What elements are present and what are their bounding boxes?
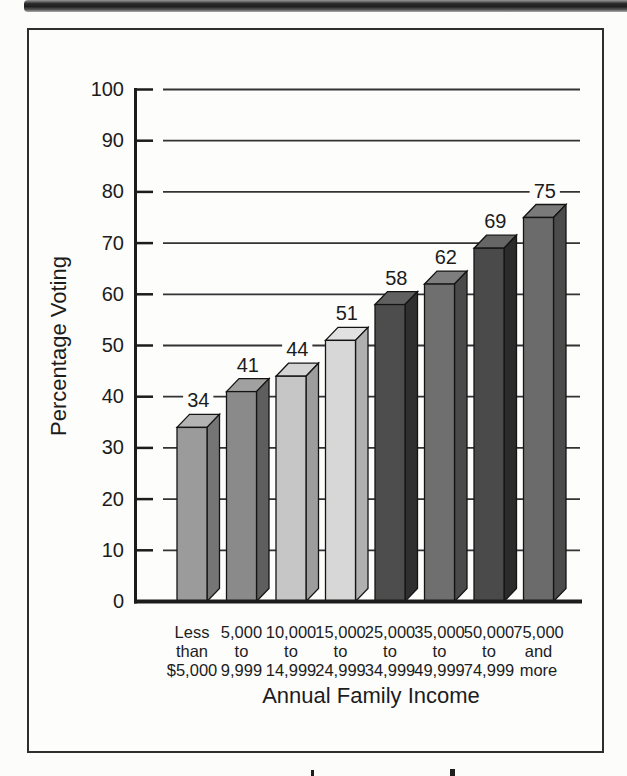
bar-value-label: 62 — [435, 246, 457, 268]
bar-value-label: 51 — [336, 302, 358, 324]
bar-side — [554, 205, 567, 602]
category-label: 75,000andmore — [513, 623, 563, 679]
bar-value-label: 34 — [187, 389, 209, 411]
y-tick-label: 60 — [102, 283, 124, 305]
category-label: 25,000to34,999 — [365, 623, 415, 679]
y-tick-label: 90 — [102, 129, 124, 151]
bar-value-label: 41 — [237, 354, 259, 376]
bar-value-label: 75 — [534, 180, 556, 202]
bar-face — [326, 340, 356, 601]
y-tick-label: 80 — [102, 180, 124, 202]
bar-face — [375, 305, 405, 602]
bar-value-label: 69 — [484, 210, 506, 232]
y-tick-label: 10 — [102, 539, 124, 561]
category-label: 10,000to14,999 — [266, 623, 316, 679]
bar-face — [524, 218, 554, 602]
bar-side — [504, 235, 517, 601]
bar-side — [455, 271, 468, 601]
y-tick-label: 70 — [102, 232, 124, 254]
bar-side — [356, 327, 369, 601]
category-label: 15,000to24,999 — [315, 623, 365, 679]
bar-chart: 01020304050607080901003441445158626975Le… — [0, 0, 627, 776]
category-label: 35,000to49,999 — [414, 623, 464, 679]
x-axis-title: Annual Family Income — [262, 683, 480, 708]
y-tick-label: 100 — [91, 78, 124, 100]
category-label: Lessthan$5,000 — [167, 623, 217, 679]
bar-face — [177, 427, 207, 601]
scanned-page: { "chart_data": { "type": "bar", "title"… — [0, 0, 627, 776]
bar-side — [306, 363, 319, 601]
bar-face — [227, 392, 257, 602]
y-tick-label: 30 — [102, 436, 124, 458]
bar-value-label: 44 — [286, 338, 308, 360]
y-tick-label: 0 — [113, 590, 124, 612]
category-label: 5,000to9,999 — [221, 623, 262, 679]
bar-face — [425, 284, 455, 601]
y-axis-title: Percentage Voting — [46, 256, 71, 436]
y-tick-label: 50 — [102, 334, 124, 356]
bar-side — [405, 292, 418, 602]
y-tick-label: 20 — [102, 488, 124, 510]
bar-face — [474, 248, 504, 601]
bar-side — [207, 414, 220, 601]
y-tick-label: 40 — [102, 385, 124, 407]
category-label: 50,000to74,999 — [464, 623, 514, 679]
bar-value-label: 58 — [385, 267, 407, 289]
bar-face — [276, 376, 306, 601]
bar-side — [257, 379, 270, 602]
